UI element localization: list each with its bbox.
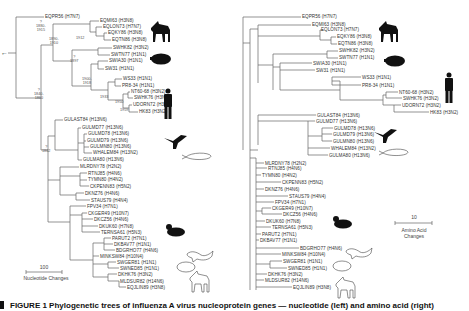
- taxon-label: PR8-34 (H1N1): [362, 83, 394, 88]
- caption-marker: [0, 301, 4, 309]
- taxon-label: GULMN80 (H13N6): [333, 139, 374, 144]
- taxon-label: DKUK60 (H7N8): [266, 219, 301, 224]
- taxon-label: WHALEM84 (H13N2): [93, 150, 138, 155]
- date-annotation: 1950: [115, 100, 123, 104]
- scale-value: 100: [34, 264, 54, 270]
- taxon-label: SWTN77 (H1N1): [339, 55, 374, 60]
- taxon-label: DKCZ56 (H4N6): [94, 217, 128, 222]
- taxon-label: SWHK82 (H3N2): [113, 45, 149, 50]
- taxon-label: DKNZ76 (H4N6): [265, 187, 299, 192]
- scale-label: Changes: [394, 233, 434, 239]
- taxon-label: EQPR56 (H7N7): [302, 14, 337, 19]
- taxon-label: PR8-34 (H1N1): [122, 83, 154, 88]
- taxon-label: SWIA30 (H1N1): [313, 61, 347, 66]
- taxon-label: EQKY86 (H3N8): [108, 30, 143, 35]
- taxon-label: EQLON73 (H7N7): [103, 24, 141, 29]
- phylogeny-figure: ← 1912 1890-1910 ?1897 1900-1918 1933 19…: [0, 0, 469, 300]
- taxon-label: WS33 (H1N1): [362, 75, 391, 80]
- bird-icon: [163, 134, 189, 150]
- horse-icon: [376, 20, 402, 44]
- taxon-label: BDGRHO77 (H4N6): [116, 248, 158, 253]
- taxon-label: TYMN80 (H4N2): [262, 173, 297, 178]
- taxon-label: FPV34 (H7N1): [275, 200, 306, 205]
- horse-outline-icon: [333, 276, 357, 300]
- scale-label: Nucleotide Changes: [16, 275, 76, 281]
- taxon-label: DKHK76 (H3N2): [118, 272, 153, 277]
- taxon-label: SWIA30 (H1N1): [109, 58, 143, 63]
- taxon-label: GULMD77 (H13N6): [82, 125, 123, 130]
- taxon-label: SWGER81 (H1N1): [283, 259, 322, 264]
- taxon-label: DKNZ76 (H4N6): [85, 191, 119, 196]
- date-annotation: 1959: [120, 108, 128, 112]
- taxon-label: GULMA80 (H13N6): [83, 157, 124, 162]
- taxon-label: RTNJ85 (H4N6): [268, 166, 302, 171]
- taxon-label: MLDSUR82 (H14N6): [265, 278, 309, 283]
- date-annotation: 1912: [76, 36, 84, 40]
- taxon-label: CKPENN83 (H5N2): [282, 180, 323, 185]
- taxon-label: GULMA80 (H13N6): [329, 153, 370, 158]
- taxon-label: MLDSUR82 (H14N6): [120, 279, 164, 284]
- caption-text: FIGURE 1 Phylogenetic trees of influenza…: [10, 301, 434, 310]
- taxon-label: GULMD79 (H13N6): [333, 132, 374, 137]
- taxon-label: EQPR56 (H7N7): [45, 14, 80, 19]
- taxon-label: DKBAV77 (H1N1): [260, 238, 297, 243]
- date-annotation: ?1840-1860: [34, 88, 44, 100]
- taxon-label: TERNSA61 (H5N3): [101, 230, 142, 235]
- horse-outline-icon: [187, 270, 211, 294]
- taxon-label: SWNED85 (H1N1): [120, 266, 159, 271]
- taxon-label: CKPENN83 (H5N2): [90, 184, 131, 189]
- date-annotation: ?1862: [42, 145, 50, 153]
- taxon-label: GULMN80 (H13N6): [90, 144, 131, 149]
- pig-outline-icon: [331, 259, 353, 273]
- whale-icon: [378, 146, 410, 158]
- taxon-label: DKUK60 (H7N8): [99, 224, 134, 229]
- bird-icon: [373, 128, 399, 144]
- human-icon: [442, 72, 456, 104]
- taxon-label: HK83 (H3N2): [430, 110, 458, 115]
- taxon-label: GULAST84 (H13N6): [64, 117, 107, 122]
- taxon-label: EQJLIN89 (H3N8): [127, 285, 165, 290]
- taxon-label: CKGER49 (H10N7): [272, 206, 313, 211]
- taxon-label: STAUS79 (H4N4): [289, 194, 326, 199]
- taxon-label: MINKSW84 (H10N4): [282, 252, 325, 257]
- taxon-label: EQTN86 (H3N8): [338, 41, 373, 46]
- taxon-label: BDGRHO77 (H4N6): [300, 246, 342, 251]
- date-annotation: ?1880-1915: [36, 20, 46, 32]
- taxon-label: GULMD79 (H13N6): [87, 138, 128, 143]
- taxon-label: SW31 (H1N1): [316, 68, 345, 73]
- taxon-label: SWHK76 (H3N2): [403, 96, 439, 101]
- taxon-label: DKBAV77 (H1N1): [114, 242, 151, 247]
- taxon-label: EQLON73 (H7N7): [321, 27, 359, 32]
- figure-caption: FIGURE 1 Phylogenetic trees of influenza…: [0, 301, 469, 311]
- taxon-label: CKGER49 (H10N7): [88, 211, 129, 216]
- duck-icon: [331, 215, 353, 229]
- taxon-label: EQTN86 (H3N8): [112, 37, 147, 42]
- taxon-label: SW31 (H1N1): [105, 66, 134, 71]
- whale-icon: [181, 150, 213, 162]
- taxon-label: FPV34 (H7N1): [87, 204, 118, 209]
- taxon-label: PARUT2 (H7N1): [262, 232, 297, 237]
- taxon-label: RTNJ85 (H4N6): [88, 171, 122, 176]
- taxon-label: GULAST84 (H13N6): [317, 113, 360, 118]
- date-annotation: ?1897: [70, 55, 78, 63]
- taxon-label: GULMD78 (H13N6): [334, 126, 375, 131]
- taxon-label: SWNED85 (H1N1): [288, 266, 327, 271]
- taxon-label: EQKY86 (H3N8): [337, 34, 372, 39]
- taxon-label: TERNSA61 (H5N3): [272, 225, 313, 230]
- date-annotation: 1900-1918: [82, 77, 92, 85]
- taxon-label: EQMI63 (H3N8): [100, 18, 134, 23]
- taxon-label: DKHK76 (H3N2): [268, 272, 303, 277]
- taxon-label: SWGER81 (H1N1): [117, 260, 156, 265]
- taxon-label: MINKSW84 (H10N4): [100, 254, 143, 259]
- horse-icon: [148, 20, 174, 44]
- pig-icon: [149, 52, 173, 66]
- taxon-label: STAUS79 (H4N4): [91, 198, 128, 203]
- taxon-label: WS33 (H1N1): [123, 76, 152, 81]
- taxon-label: EQJLIN89 (H3N8): [293, 285, 331, 290]
- taxon-label: SWHK82 (H3N2): [339, 48, 375, 53]
- taxon-label: GULMD78 (H13N6): [88, 131, 129, 136]
- taxon-label: TYMN80 (H4N2): [88, 177, 123, 182]
- date-annotation: 1890-1910: [49, 37, 59, 45]
- taxon-label: NT60-68 (H3N2): [399, 90, 434, 95]
- taxon-label: DKCZ56 (H4N6): [283, 212, 317, 217]
